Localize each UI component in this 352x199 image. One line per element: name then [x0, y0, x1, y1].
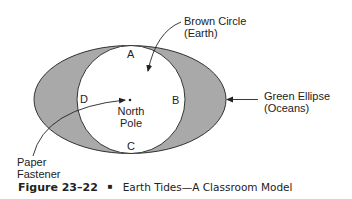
- figure-title: Earth Tides—A Classroom Model: [123, 181, 293, 193]
- green-ellipse-label-line2: (Oceans): [264, 102, 330, 114]
- point-c-label: C: [127, 141, 135, 152]
- point-b-label: B: [172, 95, 179, 106]
- figure-number: Figure 23–22: [18, 181, 98, 194]
- figure-caption: Figure 23–22■Earth Tides—A Classroom Mod…: [18, 181, 292, 194]
- north-pole-label-line2: Pole: [114, 117, 148, 129]
- point-a-label: A: [127, 49, 134, 60]
- brown-circle-label-line1: Brown Circle: [184, 15, 246, 27]
- north-pole-label-line1: North: [114, 105, 148, 117]
- paper-fastener-label: Paper Fastener: [17, 156, 60, 180]
- paper-fastener-label-line1: Paper: [17, 156, 60, 168]
- brown-circle-label-line2: (Earth): [184, 27, 246, 39]
- north-pole-label: North Pole: [114, 105, 148, 129]
- caption-bullet-icon: ■: [108, 182, 113, 191]
- green-ellipse-label-line1: Green Ellipse: [264, 90, 330, 102]
- green-ellipse-label: Green Ellipse (Oceans): [264, 90, 330, 114]
- point-d-label: D: [80, 94, 88, 105]
- paper-fastener-label-line2: Fastener: [17, 168, 60, 180]
- brown-circle-label: Brown Circle (Earth): [184, 15, 246, 39]
- north-pole-dot: [129, 99, 132, 102]
